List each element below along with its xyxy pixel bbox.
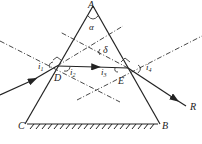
normal-lines (0, 26, 202, 102)
label-C: C (18, 120, 25, 131)
label-A: A (87, 0, 95, 10)
label-B: B (162, 120, 168, 131)
label-i2: i2 (70, 67, 76, 78)
prism-base-mirror (27, 124, 158, 129)
label-E: E (117, 75, 124, 86)
light-ray (0, 66, 186, 106)
label-R: R (189, 101, 196, 112)
prism-diagram: A α δ i1 i2 i3 i4 D E C B R (0, 0, 202, 144)
right-angle-marks (53, 57, 130, 62)
label-D: D (53, 72, 62, 83)
label-alpha: α (89, 22, 94, 32)
label-delta: δ (103, 44, 108, 55)
label-i3: i3 (101, 67, 107, 78)
